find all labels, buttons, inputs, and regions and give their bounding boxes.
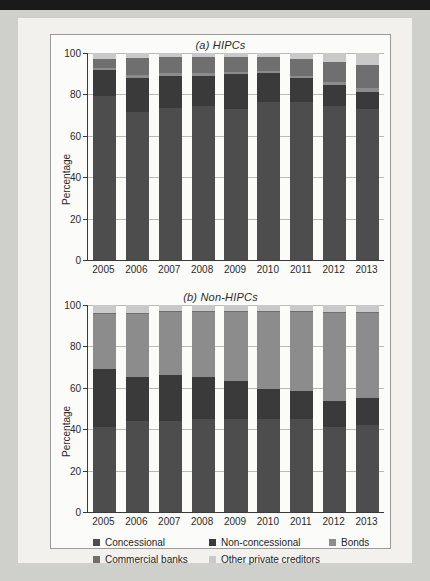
- bar-2005[interactable]: [93, 53, 116, 260]
- bar-2009[interactable]: [224, 305, 247, 512]
- y-axis-tick-label: 60: [55, 130, 81, 141]
- bar-segment: [93, 305, 116, 313]
- legend-swatch-icon: [329, 539, 336, 546]
- bar-segment: [257, 312, 280, 389]
- bar-segment: [93, 96, 116, 260]
- bar-segment: [192, 76, 215, 106]
- bar-segment: [224, 419, 247, 512]
- bar-segment: [323, 53, 346, 62]
- bar-segment: [290, 419, 313, 512]
- y-axis-tick-label: 20: [55, 465, 81, 476]
- bar-segment: [93, 70, 116, 97]
- bar-segment: [224, 312, 247, 380]
- panel-b-title: (b) Non-HIPCs: [51, 291, 390, 303]
- x-axis-tick-label: 2013: [355, 516, 377, 527]
- bar-segment: [159, 57, 182, 73]
- legend-swatch-icon: [93, 539, 100, 546]
- bar-segment: [159, 108, 182, 260]
- y-axis-tick-label: 80: [55, 341, 81, 352]
- bar-segment: [126, 112, 149, 260]
- bar-2012[interactable]: [323, 305, 346, 512]
- x-axis-tick-label: 2008: [191, 264, 213, 275]
- legend: ConcessionalNon-concessionalBondsCommerc…: [51, 537, 390, 571]
- bar-2013[interactable]: [356, 53, 379, 260]
- y-axis-tick-label: 100: [55, 48, 81, 59]
- bar-segment: [192, 377, 215, 418]
- bar-2007[interactable]: [159, 305, 182, 512]
- bar-segment: [290, 102, 313, 260]
- panel-nonhipcs: (b) Non-HIPCs Percentage 020406080100200…: [51, 287, 390, 537]
- x-axis-tick-label: 2013: [355, 264, 377, 275]
- legend-item[interactable]: Concessional: [93, 537, 165, 548]
- legend-item[interactable]: Commercial banks: [93, 554, 188, 565]
- bar-segment: [159, 312, 182, 375]
- bar-segment: [356, 109, 379, 260]
- x-axis-tick-label: 2007: [158, 264, 180, 275]
- bar-segment: [290, 312, 313, 391]
- legend-item[interactable]: Other private creditors: [209, 554, 320, 565]
- bar-2007[interactable]: [159, 53, 182, 260]
- bar-segment: [257, 389, 280, 419]
- x-axis-tick-label: 2007: [158, 516, 180, 527]
- legend-label: Non-concessional: [221, 537, 301, 548]
- y-axis-tick-label: 100: [55, 300, 81, 311]
- bar-2010[interactable]: [257, 305, 280, 512]
- panel-hipcs: (a) HIPCs Percentage 0204060801002005200…: [51, 35, 390, 285]
- bar-segment: [356, 65, 379, 88]
- bar-2010[interactable]: [257, 53, 280, 260]
- y-axis-tick-label: 40: [55, 172, 81, 183]
- x-axis-tick-label: 2011: [290, 264, 312, 275]
- bar-segment: [224, 57, 247, 71]
- x-axis-tick-label: 2009: [224, 264, 246, 275]
- bar-segment: [323, 62, 346, 82]
- bar-segment: [224, 109, 247, 260]
- bar-segment: [323, 106, 346, 260]
- bar-2011[interactable]: [290, 305, 313, 512]
- bar-segment: [93, 59, 116, 67]
- bar-segment: [356, 313, 379, 398]
- legend-row: ConcessionalNon-concessionalBonds: [51, 537, 390, 553]
- bar-segment: [159, 421, 182, 512]
- legend-label: Bonds: [341, 537, 369, 548]
- bar-segment: [159, 375, 182, 421]
- legend-item[interactable]: Bonds: [329, 537, 369, 548]
- bar-segment: [224, 74, 247, 109]
- bar-segment: [126, 314, 149, 377]
- bar-segment: [356, 398, 379, 425]
- y-axis-tick-label: 80: [55, 89, 81, 100]
- y-axis-tick-label: 60: [55, 382, 81, 393]
- panel-a-title: (a) HIPCs: [51, 39, 390, 51]
- bar-2005[interactable]: [93, 305, 116, 512]
- x-axis-tick-label: 2011: [290, 516, 312, 527]
- x-axis-tick-label: 2005: [92, 264, 114, 275]
- x-axis-tick-label: 2009: [224, 516, 246, 527]
- bar-segment: [192, 106, 215, 260]
- plot-hipcs: [87, 53, 384, 261]
- bar-segment: [356, 53, 379, 65]
- bar-2008[interactable]: [192, 53, 215, 260]
- bar-segment: [126, 78, 149, 112]
- bar-2006[interactable]: [126, 305, 149, 512]
- legend-swatch-icon: [209, 556, 216, 563]
- legend-item[interactable]: Non-concessional: [209, 537, 301, 548]
- x-axis-tick-label: 2005: [92, 516, 114, 527]
- bar-segment: [290, 59, 313, 76]
- legend-row: Commercial banksOther private creditors: [51, 554, 390, 570]
- bar-2013[interactable]: [356, 305, 379, 512]
- bar-segment: [93, 369, 116, 427]
- bar-2009[interactable]: [224, 53, 247, 260]
- bar-segment: [257, 73, 280, 102]
- x-axis-tick-label: 2006: [125, 264, 147, 275]
- bar-2012[interactable]: [323, 53, 346, 260]
- bar-segment: [257, 419, 280, 512]
- bar-segment: [257, 57, 280, 70]
- bar-segment: [159, 76, 182, 108]
- bar-segment: [192, 419, 215, 512]
- bar-2011[interactable]: [290, 53, 313, 260]
- legend-label: Other private creditors: [221, 554, 320, 565]
- bar-2006[interactable]: [126, 53, 149, 260]
- bar-segment: [323, 427, 346, 512]
- legend-swatch-icon: [93, 556, 100, 563]
- y-axis-tick-label: 0: [55, 507, 81, 518]
- bar-2008[interactable]: [192, 305, 215, 512]
